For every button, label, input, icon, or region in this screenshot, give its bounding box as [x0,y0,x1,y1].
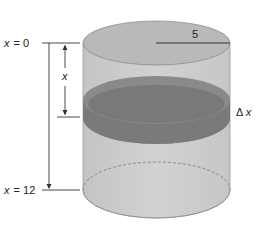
delta-x-label: Δ x [236,106,252,118]
x12-label: x = 12 [3,184,35,196]
x0-label: x = 0 [3,37,29,49]
slice-top-inner [89,85,225,123]
x0-var: x [3,37,10,49]
x0-eq: = 0 [14,37,30,49]
depth-x-label: x [61,70,68,82]
delta-var: x [245,106,252,118]
x12-eq: = 12 [14,184,36,196]
depth-arrowhead-up [63,45,68,51]
delta-symbol: Δ [236,106,244,118]
full-height-arrowhead [47,184,52,189]
radius-label: 5 [192,28,198,40]
x12-var: x [3,184,10,196]
depth-arrowhead-down [63,110,68,116]
cylinder-diagram: 5 x = 0 x = 12 x Δ x [0,0,260,230]
